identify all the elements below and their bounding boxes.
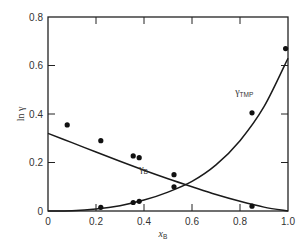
data-point (98, 205, 103, 210)
y-tick-label: 0 (37, 206, 43, 217)
chart: 00.20.40.60.81.0 00.20.40.60.8 γBγTMP xB… (0, 0, 305, 252)
data-point (131, 200, 136, 205)
data-point (283, 46, 288, 51)
fit-curve-b (48, 133, 288, 211)
y-axis-label: ln γ (15, 106, 26, 121)
fit-curve-tmp (48, 58, 288, 211)
y-tick-label: 0.8 (29, 12, 43, 23)
y-tick-label: 0.2 (29, 157, 43, 168)
x-tick-label: 0 (45, 216, 51, 227)
y-tick-label: 0.4 (29, 109, 43, 120)
data-points (65, 46, 289, 210)
x-tick-label: 0.2 (89, 216, 103, 227)
x-tick-label: 0.6 (185, 216, 199, 227)
data-point (65, 122, 70, 127)
series-label-tmp: γTMP (234, 86, 253, 98)
series-label-b: γB (138, 163, 148, 175)
x-tick-label: 0.8 (233, 216, 247, 227)
series-labels: γBγTMP (138, 86, 253, 176)
y-tick-labels: 00.20.40.60.8 (29, 12, 43, 217)
x-tick-label: 1.0 (281, 216, 295, 227)
y-tick-label: 0.6 (29, 60, 43, 71)
data-point (171, 184, 176, 189)
data-point (137, 155, 142, 160)
fit-curves (48, 58, 288, 211)
data-point (137, 199, 142, 204)
data-point (131, 153, 136, 158)
x-tick-label: 0.4 (137, 216, 151, 227)
data-point (171, 172, 176, 177)
data-point (249, 110, 254, 115)
data-point (98, 138, 103, 143)
x-axis-label: xB (158, 228, 168, 240)
x-tick-labels: 00.20.40.60.81.0 (45, 216, 295, 227)
data-point (249, 204, 254, 209)
